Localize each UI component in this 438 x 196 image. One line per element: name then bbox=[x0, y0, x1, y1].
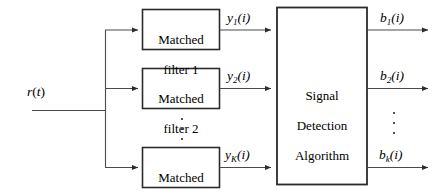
output-b1-arg: (i) bbox=[391, 10, 404, 25]
signal-label-y1: y1(i) bbox=[227, 10, 250, 26]
output-bk-sub: k bbox=[386, 154, 390, 164]
outputs-ellipsis-icon bbox=[392, 112, 395, 134]
matched-filter-1-label: Matched filter 1 bbox=[142, 17, 220, 77]
signal-label-y2: y2(i) bbox=[227, 68, 250, 84]
processor-line3: Algorithm bbox=[295, 148, 349, 163]
output-label-b2: b2(i) bbox=[380, 68, 404, 84]
processor-line2: Detection bbox=[297, 118, 348, 133]
signal-y1-sub: 1 bbox=[233, 17, 238, 27]
signal-label-yk: yK(i) bbox=[225, 147, 250, 163]
signal-y2-sub: 2 bbox=[233, 75, 238, 85]
filters-ellipsis-icon bbox=[180, 118, 183, 140]
output-label-b1: b1(i) bbox=[380, 10, 404, 26]
output-bk-base: b bbox=[379, 147, 386, 162]
matched-filter-1-line1: Matched bbox=[158, 32, 203, 47]
signal-yk-arg: (i) bbox=[237, 147, 250, 162]
output-b1-base: b bbox=[380, 10, 387, 25]
matched-filter-k-label: Matched filter K bbox=[142, 155, 220, 196]
output-b1-sub: 1 bbox=[387, 17, 392, 27]
matched-filter-1-line2: filter 1 bbox=[163, 62, 198, 77]
signal-y2-arg: (i) bbox=[238, 68, 251, 83]
output-label-bk: bk(i) bbox=[379, 147, 403, 163]
signal-y1-arg: (i) bbox=[238, 10, 251, 25]
block-diagram: r(t) Matched filter 1 Matched filter 2 M… bbox=[0, 0, 438, 196]
matched-filter-k-line1: Matched bbox=[158, 170, 203, 185]
output-b2-sub: 2 bbox=[387, 75, 392, 85]
input-signal-label: r(t) bbox=[27, 84, 45, 100]
output-b2-arg: (i) bbox=[391, 68, 404, 83]
signal-detection-algorithm-label: Signal Detection Algorithm bbox=[277, 73, 367, 163]
signal-yk-sub: K bbox=[231, 154, 237, 164]
matched-filter-2-line1: Matched bbox=[158, 91, 203, 106]
output-b2-base: b bbox=[380, 68, 387, 83]
output-bk-arg: (i) bbox=[390, 147, 403, 162]
processor-line1: Signal bbox=[305, 88, 338, 103]
